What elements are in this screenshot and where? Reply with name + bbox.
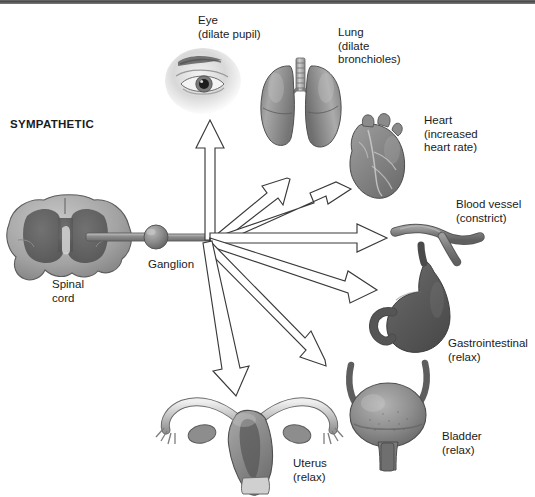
label-blood-vessel: Blood vessel (constrict) [456,198,521,225]
label-lung: Lung (dilate bronchioles) [338,26,401,67]
label-ganglion: Ganglion [148,258,194,272]
arrow-to-eye [196,120,224,240]
label-eye: Eye (dilate pupil) [198,14,261,41]
arrow-layer [0,0,535,497]
label-spinal-cord: Spinal cord [52,278,84,305]
diagram-canvas: SYMPATHETIC Eye (dilate pupil) Lung (dil… [0,0,535,497]
label-bladder: Bladder (relax) [442,430,482,457]
page-title: SYMPATHETIC [10,118,94,132]
label-heart: Heart (increased heart rate) [424,114,478,155]
label-uterus: Uterus (relax) [293,457,327,484]
label-gastrointestinal: Gastrointestinal (relax) [448,337,528,364]
